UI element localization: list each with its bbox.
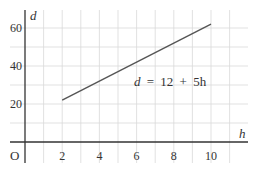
- equation-term: 5h: [193, 74, 207, 89]
- y-axis-label: d: [30, 8, 37, 23]
- axes: [10, 10, 248, 163]
- x-tick-label: 4: [96, 149, 102, 163]
- x-tick-label: 8: [171, 149, 177, 163]
- equation-eq: =: [147, 74, 154, 89]
- equation-label: d = 12 + 5h: [134, 74, 207, 89]
- x-tick-label: 6: [134, 149, 140, 163]
- x-tick-labels: 246810: [59, 149, 217, 163]
- origin-label: O: [10, 148, 19, 163]
- x-tick-label: 10: [205, 149, 217, 163]
- line-chart: d h O 204060 246810 d = 12 + 5h: [0, 0, 253, 169]
- equation-lhs: d: [134, 74, 141, 89]
- y-tick-label: 40: [10, 59, 22, 73]
- y-tick-label: 20: [10, 97, 22, 111]
- grid-lines: [10, 10, 248, 163]
- y-tick-label: 60: [10, 21, 22, 35]
- equation-const: 12: [160, 74, 173, 89]
- x-tick-label: 2: [59, 149, 65, 163]
- y-tick-labels: 204060: [10, 21, 22, 111]
- equation-plus: +: [180, 74, 187, 89]
- x-axis-label: h: [239, 126, 246, 141]
